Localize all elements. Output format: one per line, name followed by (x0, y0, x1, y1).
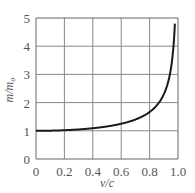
y-tick-label: 3 (24, 67, 31, 82)
y-tick-label: 4 (24, 39, 31, 54)
x-tick-label: 0.8 (141, 164, 157, 179)
x-tick-label: 0.6 (113, 164, 130, 179)
chart: 012345 00.20.40.60.81.0 v/c m/m₀ (0, 0, 195, 193)
y-tick-label: 5 (24, 11, 31, 26)
x-tick-label: 1.0 (170, 164, 186, 179)
x-tick-label: 0.4 (85, 164, 102, 179)
x-tick-label: 0 (33, 164, 40, 179)
y-axis-label: m/m₀ (2, 78, 16, 103)
x-axis-label: v/c (100, 176, 115, 190)
grid-lines (36, 18, 178, 159)
y-tick-label: 1 (24, 124, 31, 139)
y-axis-ticks: 012345 (24, 11, 31, 167)
y-tick-label: 0 (24, 152, 31, 167)
x-tick-label: 0.2 (56, 164, 72, 179)
plot-area (36, 24, 175, 131)
y-tick-label: 2 (24, 96, 31, 111)
data-series-line (36, 24, 175, 131)
